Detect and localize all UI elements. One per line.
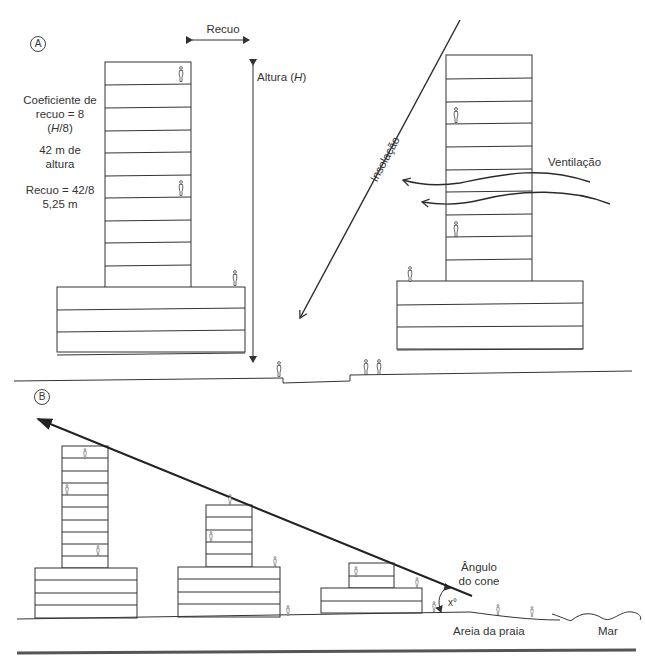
angle-line-1: Ângulo [452,560,506,574]
building-b2-podium [178,567,280,617]
coef-line-3: (H/8) [12,121,108,135]
height-line-1: 42 m de [12,143,108,157]
recuo-calc-line-2: 5,25 m [12,197,108,211]
altura-42m-label: 42 m de altura [12,143,108,171]
building-a-left-tower [105,62,191,288]
building-a-left-podium [57,287,245,355]
coef-rest: /8) [59,122,72,134]
cone-angle-label: Ângulo do cone [452,560,506,588]
building-b2-tower [206,505,252,567]
section-b-marker: B [34,389,50,405]
bottom-rule [17,650,636,653]
beach-label: Areia da praia [453,624,525,638]
building-b3-podium [321,588,422,613]
section-a-marker: A [30,36,46,52]
angle-line-2: do cone [452,574,506,588]
cone-angle-arc [439,590,444,612]
sea-waves [552,612,641,621]
angle-value: x° [448,596,457,610]
altura-suffix: ) [302,71,306,83]
building-b1-podium [35,568,137,618]
recuo-calc-label: Recuo = 42/8 5,25 m [12,183,108,211]
ground-line-a [14,371,632,383]
building-a-right-tower [446,55,532,283]
altura-label: Altura (H) [257,70,306,84]
ventilacao-label: Ventilação [548,155,601,169]
sea-label: Mar [598,624,618,638]
recuo-label: Recuo [201,22,245,36]
building-b1-tower [62,446,108,568]
height-line-2: altura [12,157,108,171]
recuo-calc-line-1: Recuo = 42/8 [12,183,108,197]
coef-line-1: Coeficiente de [12,93,108,107]
coef-line-2: recuo = 8 [12,107,108,121]
coeficiente-label: Coeficiente de recuo = 8 (H/8) [12,93,108,135]
altura-prefix: Altura ( [257,71,294,83]
building-a-right-podium [397,281,583,350]
section-b-drawing [17,446,641,621]
